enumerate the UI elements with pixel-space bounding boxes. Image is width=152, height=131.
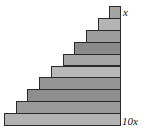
label-top-x: x xyxy=(123,7,128,18)
label-bottom-10x: 10x xyxy=(122,116,138,127)
bar-10x xyxy=(4,113,121,126)
